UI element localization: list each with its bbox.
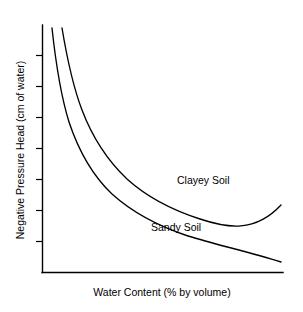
soil-water-retention-chart: Clayey Soil Sandy Soil Negative Pressure… [0, 0, 303, 312]
series-label-clayey-soil: Clayey Soil [177, 174, 230, 186]
curve-clayey-soil [62, 28, 281, 226]
chart-canvas: Clayey Soil Sandy Soil Negative Pressure… [0, 0, 303, 312]
y-axis-title: Negative Pressure Head (cm of water) [14, 61, 26, 240]
x-axis-title: Water Content (% by volume) [93, 286, 230, 298]
y-axis-ticks [36, 56, 42, 242]
series-label-sandy-soil: Sandy Soil [151, 221, 201, 233]
